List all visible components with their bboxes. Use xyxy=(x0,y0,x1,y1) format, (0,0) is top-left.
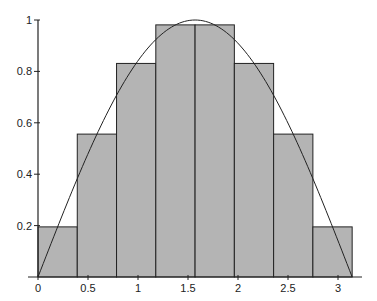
bar xyxy=(234,63,273,277)
bar xyxy=(38,227,77,277)
bar xyxy=(77,134,116,277)
y-ticks: 0.20.40.60.81 xyxy=(17,14,40,232)
x-ticks: 00.511.522.53 xyxy=(35,275,341,294)
bar xyxy=(313,227,352,277)
y-tick-label: 0.8 xyxy=(17,65,32,77)
y-tick-label: 1 xyxy=(26,14,32,26)
bar xyxy=(274,134,313,277)
x-tick-label: 0 xyxy=(35,282,41,294)
x-tick-label: 0.5 xyxy=(80,282,95,294)
x-tick-label: 1 xyxy=(135,282,141,294)
bar xyxy=(156,25,195,277)
y-tick-label: 0.6 xyxy=(17,117,32,129)
x-tick-label: 2.5 xyxy=(280,282,295,294)
bar xyxy=(195,25,234,277)
bars-group xyxy=(38,25,352,277)
y-tick-label: 0.2 xyxy=(17,220,32,232)
x-tick-label: 2 xyxy=(235,282,241,294)
x-tick-label: 3 xyxy=(335,282,341,294)
riemann-sum-chart: 0.20.40.60.81 00.511.522.53 xyxy=(0,0,377,301)
y-tick-label: 0.4 xyxy=(17,168,32,180)
x-tick-label: 1.5 xyxy=(180,282,195,294)
bar xyxy=(117,63,156,277)
